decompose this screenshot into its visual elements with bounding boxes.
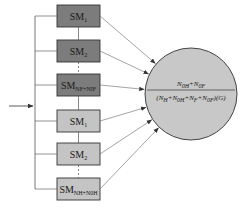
fraction-denominator: (NH+N0H+NF+N0F)(G): [156, 94, 226, 103]
module-to-circle-arrow: [100, 51, 149, 74]
module-to-circle-arrow: [100, 128, 158, 189]
module-to-circle-arrow: [100, 120, 152, 154]
module-to-circle-arrow: [100, 16, 155, 63]
sm-diagram: SM1SM2SMNF+NIFSM1SM2SMNH+N0H N0H+N0F (NH…: [0, 0, 243, 212]
module-to-circle-arrow: [100, 107, 146, 121]
module-to-circle-arrow: [100, 85, 144, 89]
